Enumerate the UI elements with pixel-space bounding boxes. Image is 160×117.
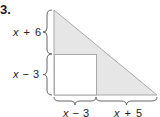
left-upper-brace <box>43 10 52 54</box>
label-bottom-right: x + 5 <box>113 107 142 117</box>
label-left-upper: x + 6 <box>12 26 41 38</box>
label-bottom-left: x − 3 <box>62 107 89 117</box>
label-left-lower: x − 3 <box>12 68 39 80</box>
inscribed-square <box>55 55 97 96</box>
geometry-figure: x + 6 x − 3 x − 3 x + 5 <box>0 0 160 117</box>
left-lower-brace <box>43 54 52 95</box>
bottom-right-brace <box>96 97 157 105</box>
bottom-left-brace <box>54 97 96 105</box>
